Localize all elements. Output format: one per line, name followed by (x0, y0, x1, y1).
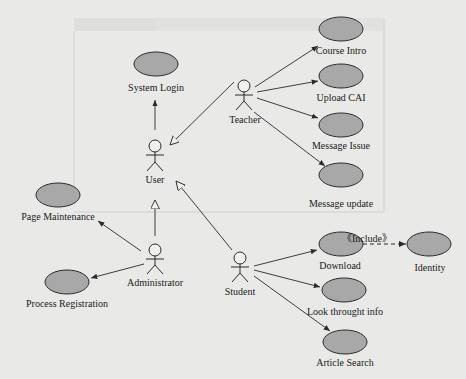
use-case-process-registration[interactable] (45, 270, 89, 294)
use-case-message-issue[interactable] (319, 113, 363, 137)
assoc-student-article-search (254, 276, 330, 331)
label-identity: Identity (414, 262, 445, 273)
use-case-diagram (0, 0, 466, 379)
assoc-teacher-upload-cai (257, 81, 318, 92)
label-download: Download (319, 260, 361, 271)
assoc-student-look-info (254, 270, 320, 287)
assoc-teacher-message-issue (257, 98, 318, 118)
use-case-course-intro[interactable] (319, 17, 363, 41)
use-case-system-login[interactable] (134, 52, 178, 76)
actor-user-icon[interactable] (146, 140, 164, 171)
use-case-identity[interactable] (407, 232, 451, 256)
label-upload-cai: Upload CAI (316, 92, 365, 103)
label-page-maintenance: Page Maintenance (21, 211, 95, 222)
use-case-page-maintenance[interactable] (36, 183, 80, 207)
generalization-student-user (176, 181, 232, 250)
label-message-issue: Message Issue (312, 140, 370, 151)
use-case-article-search[interactable] (323, 330, 367, 354)
label-look-info: Look throught info (307, 306, 383, 317)
label-process-registration: Process Registration (26, 298, 108, 309)
label-actor-student: Student (225, 286, 256, 297)
label-message-update: Message update (309, 198, 373, 209)
label-actor-user: User (146, 174, 165, 185)
use-case-message-update[interactable] (319, 163, 363, 187)
assoc-student-download (254, 250, 317, 266)
actor-student-icon[interactable] (231, 252, 249, 282)
label-actor-teacher: Teacher (229, 114, 261, 125)
assoc-admin-process-registration (91, 264, 144, 278)
assoc-teacher-course-intro (255, 46, 318, 87)
assoc-admin-page-maintenance (98, 221, 141, 251)
actor-teacher-icon[interactable] (235, 80, 253, 110)
use-case-upload-cai[interactable] (319, 64, 363, 88)
label-course-intro: Course Intro (316, 45, 366, 56)
use-case-look-info[interactable] (322, 278, 366, 302)
label-system-login: System Login (128, 82, 184, 93)
actor-administrator-icon[interactable] (146, 244, 164, 274)
label-include: 《Include》 (342, 230, 392, 245)
label-actor-administrator: Administrator (127, 277, 183, 288)
label-article-search: Article Search (316, 357, 373, 368)
assoc-teacher-message-update (254, 112, 325, 166)
